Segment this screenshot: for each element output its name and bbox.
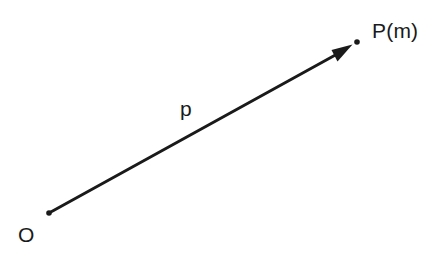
diagram-canvas: O p P(m) xyxy=(0,0,446,256)
vector-label: p xyxy=(180,98,192,119)
terminal-point-dot xyxy=(354,39,360,45)
origin-label: O xyxy=(18,224,35,245)
vector-shaft-line xyxy=(49,51,344,214)
point-label: P(m) xyxy=(372,20,418,41)
vector-arrowhead xyxy=(332,45,353,62)
origin-point-dot xyxy=(46,210,52,216)
